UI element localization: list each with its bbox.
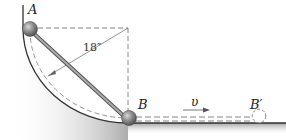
ball-a bbox=[23, 22, 38, 37]
label-radius: 18″ bbox=[83, 42, 101, 53]
label-b: B bbox=[138, 98, 148, 111]
diagram-canvas bbox=[0, 0, 286, 140]
travel-path bbox=[136, 117, 252, 121]
surface-shading bbox=[10, 5, 286, 140]
label-velocity: υ bbox=[191, 96, 198, 108]
label-a: A bbox=[28, 3, 37, 16]
diagram: A B B′ υ 18″ bbox=[0, 0, 286, 140]
label-b-prime: B′ bbox=[250, 98, 263, 111]
ball-b bbox=[122, 111, 137, 126]
